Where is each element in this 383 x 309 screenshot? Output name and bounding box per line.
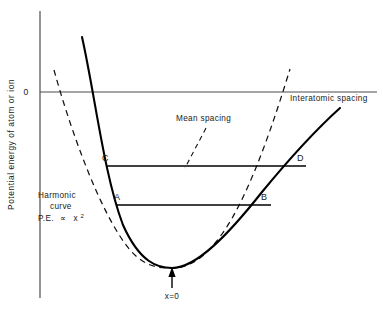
y-axis-zero-label: 0 [23,87,28,97]
harmonic-caption-line-1: Harmonic [38,191,76,200]
point-label-d: D [297,153,304,163]
proportional-symbol: ∝ [60,214,66,223]
potential-energy-diagram: Potential energy of atom or ion 0 Intera… [0,0,383,309]
mean-spacing-label: Mean spacing [176,114,231,123]
mean-spacing-leader-line [185,128,206,168]
point-label-c: C [102,153,109,163]
origin-label: x=0 [165,292,180,301]
y-axis-title: Potential energy of atom or ion [6,79,16,210]
harmonic-caption-line-2: curve [50,202,72,211]
harmonic-pe-text: P.E. [38,214,54,223]
harmonic-exponent: 2 [81,213,85,219]
harmonic-curve [54,69,290,268]
x-axis-label: Interatomic spacing [290,94,368,103]
harmonic-caption-line-3: P.E. ∝ x 2 [38,213,85,223]
point-label-b: B [261,192,267,202]
diagram-canvas: Potential energy of atom or ion 0 Intera… [0,0,383,309]
harmonic-variable: x [73,214,77,223]
point-label-a: A [114,192,120,202]
